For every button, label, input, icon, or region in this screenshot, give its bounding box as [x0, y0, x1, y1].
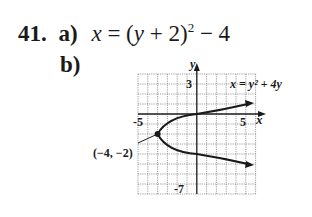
- vertex-point: [155, 131, 161, 137]
- vertex-label: (−4, −2): [93, 146, 133, 160]
- vertex-pointer: [138, 134, 158, 143]
- x-tick-neg5: -5: [133, 115, 143, 129]
- y-tick-neg7: -7: [174, 182, 184, 196]
- curve-arrow-lower-icon: [245, 161, 254, 168]
- curve-label: x = y² + 4y: [229, 77, 283, 91]
- x-axis-label: x: [255, 112, 263, 127]
- parabola-graph: y x 3 -7 -5 5 (−4, −2) x = y² + 4y: [0, 0, 312, 217]
- y-tick-3: 3: [186, 77, 192, 91]
- x-tick-5: 5: [240, 115, 246, 129]
- y-axis-label: y: [188, 57, 196, 71]
- curve-arrow-upper-icon: [245, 100, 254, 107]
